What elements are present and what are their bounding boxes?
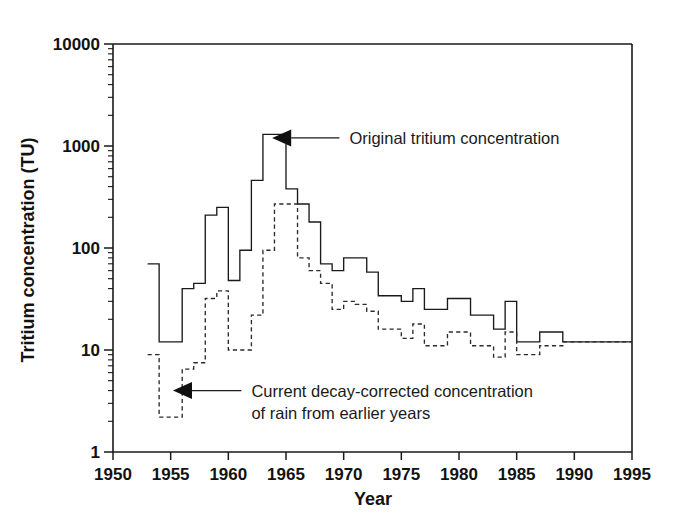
annotation-text: Current decay-corrected concentration	[251, 382, 533, 400]
y-axis-ticks	[104, 44, 113, 452]
x-tick-label: 1970	[325, 465, 363, 484]
y-axis-title: Tritium concentration (TU)	[18, 137, 38, 362]
x-tick-label: 1950	[94, 465, 132, 484]
series-original-tritium-concentration	[148, 134, 632, 342]
x-tick-label: 1955	[152, 465, 190, 484]
tritium-concentration-figure: 110100100010000 195019551960196519701975…	[0, 0, 674, 525]
x-tick-label: 1975	[382, 465, 420, 484]
annotation-text: Original tritium concentration	[349, 129, 559, 147]
x-tick-label: 1965	[267, 465, 305, 484]
x-tick-label: 1995	[613, 465, 651, 484]
y-axis-tick-labels: 110100100010000	[53, 35, 100, 462]
annotation-arrow-head	[272, 129, 291, 146]
y-tick-label: 1000	[62, 137, 100, 156]
x-tick-label: 1985	[498, 465, 536, 484]
x-tick-label: 1980	[440, 465, 478, 484]
y-tick-label: 100	[72, 239, 100, 258]
chart-annotations: Original tritium concentrationCurrent de…	[173, 129, 559, 422]
y-tick-label: 10000	[53, 35, 100, 54]
y-tick-label: 10	[81, 341, 100, 360]
x-tick-label: 1990	[555, 465, 593, 484]
tritium-chart-svg: 110100100010000 195019551960196519701975…	[0, 0, 674, 525]
annotation-text: of rain from earlier years	[251, 404, 430, 422]
x-axis-tick-labels: 1950195519601965197019751980198519901995	[94, 465, 651, 484]
x-tick-label: 1960	[209, 465, 247, 484]
x-axis-title: Year	[354, 489, 392, 509]
x-axis-ticks	[113, 452, 632, 460]
y-tick-label: 1	[91, 443, 100, 462]
